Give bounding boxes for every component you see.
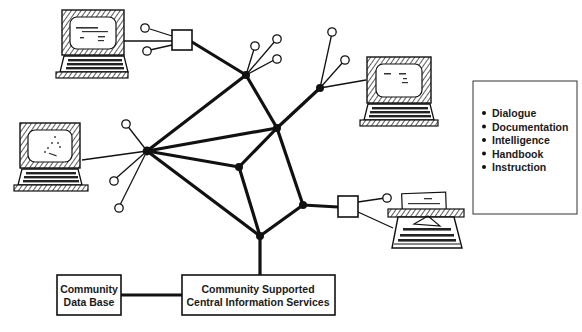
service-item-handbook: Handbook: [492, 148, 543, 160]
node-top-right-hub: [316, 84, 324, 92]
spoke-endpoints: [110, 24, 391, 212]
computer-terminal-top-right: [360, 57, 438, 126]
service-item-instruction: Instruction: [492, 161, 546, 173]
service-item-dialogue: Dialogue: [492, 107, 536, 119]
community-data-base-box: Community Data Base: [57, 275, 121, 315]
concentrator-right: [338, 196, 358, 217]
node-left-hub: [143, 147, 152, 156]
teletypewriter-terminal: [388, 192, 464, 248]
node-right-hub: [273, 124, 281, 132]
data-base-label-line1: Community: [60, 283, 118, 295]
service-item-documentation: Documentation: [492, 121, 568, 133]
data-base-label-line2: Data Base: [64, 296, 115, 308]
service-item-intelligence: Intelligence: [492, 134, 550, 146]
node-bottom-hub: [256, 232, 264, 240]
network-diagram: Dialogue Documentation Intelligence Hand…: [0, 0, 582, 332]
backbone-links: [121, 42, 338, 295]
node-center-hub: [235, 163, 243, 171]
node-top-hub: [242, 71, 250, 79]
computer-terminal-left: [14, 123, 88, 191]
concentrator-top-left: [172, 30, 192, 50]
central-services-label-line1: Community Supported: [201, 283, 314, 295]
services-list-panel: Dialogue Documentation Intelligence Hand…: [473, 81, 577, 214]
computer-terminal-top-left: [56, 10, 128, 78]
central-information-services-box: Community Supported Central Information …: [182, 275, 335, 315]
node-bottom-right-hub: [299, 201, 307, 209]
central-services-label-line2: Central Information Services: [187, 296, 330, 308]
